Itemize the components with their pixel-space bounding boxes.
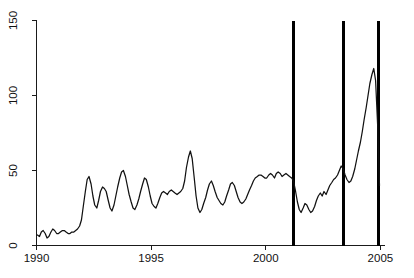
y-axis-ticks (32, 21, 37, 246)
chart-figure: 050100150 1990199520002005 (0, 0, 414, 278)
y-tick-label-150: 150 (7, 11, 19, 30)
series-line-value (37, 69, 379, 239)
chart-canvas: 050100150 1990199520002005 (0, 0, 414, 278)
x-tick-label-2000: 2000 (253, 252, 279, 264)
y-tick-label-100: 100 (7, 86, 19, 105)
y-tick-label-50: 50 (7, 164, 19, 177)
y-tick-label-0: 0 (7, 242, 19, 248)
y-axis-group: 050100150 (7, 11, 36, 249)
vertical-event-lines (293, 21, 378, 246)
x-axis-ticks (37, 246, 381, 251)
x-axis-group: 1990199520002005 (24, 246, 394, 264)
y-axis-tick-labels: 050100150 (7, 11, 19, 249)
x-tick-label-2005: 2005 (368, 252, 394, 264)
x-axis-tick-labels: 1990199520002005 (24, 252, 394, 264)
x-tick-label-1990: 1990 (24, 252, 50, 264)
x-tick-label-1995: 1995 (138, 252, 164, 264)
